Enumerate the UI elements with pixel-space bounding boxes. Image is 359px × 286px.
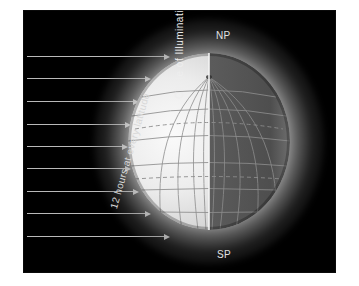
south-pole-label: SP [217,249,231,260]
diagram-page: NP SP Circle of Illumination 12 hours at… [0,0,359,286]
circle-of-illumination-label: Circle of Illumination [174,11,185,99]
illustration-panel: NP SP Circle of Illumination 12 hours at… [24,11,335,272]
globe-container [128,53,290,230]
north-pole-label: NP [216,30,231,41]
globe-svg [128,53,290,230]
earth-globe [128,53,290,230]
